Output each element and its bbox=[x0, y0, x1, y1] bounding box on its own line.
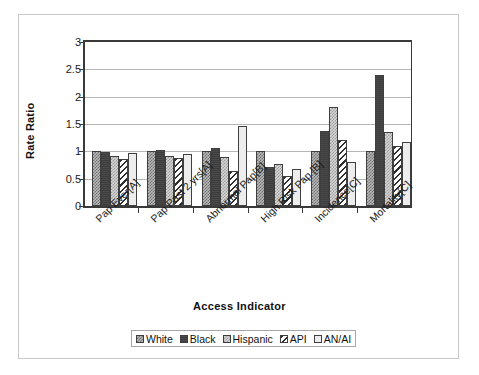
bar bbox=[156, 150, 165, 206]
legend-label: Black bbox=[190, 334, 216, 344]
y-axis-title: Rate Ratio bbox=[22, 96, 38, 166]
bar bbox=[147, 151, 156, 206]
y-axis-tick-labels: 00.511.522.53 bbox=[55, 32, 81, 216]
bar bbox=[375, 75, 384, 206]
y-tick-mark bbox=[79, 42, 83, 43]
legend-label: White bbox=[146, 334, 173, 344]
bar bbox=[211, 148, 220, 206]
y-tick-mark bbox=[79, 69, 83, 70]
legend-swatch-icon bbox=[314, 335, 322, 343]
chart-legend: WhiteBlackHispanicAPIAN/AI bbox=[131, 330, 356, 347]
legend-item: White bbox=[136, 334, 173, 344]
legend-swatch-icon bbox=[180, 335, 188, 343]
gridline bbox=[85, 124, 411, 125]
legend-label: Hispanic bbox=[233, 334, 273, 344]
y-tick-mark bbox=[79, 151, 83, 152]
y-tick-mark bbox=[79, 97, 83, 98]
gridline bbox=[85, 97, 411, 98]
x-axis-title: Access Indicator bbox=[0, 300, 479, 312]
bar bbox=[101, 152, 110, 206]
x-tick-mark bbox=[248, 208, 249, 213]
bar bbox=[92, 151, 101, 206]
chart-figure: Rate Ratio 00.511.522.53 Access Indicato… bbox=[0, 0, 479, 375]
legend-label: API bbox=[290, 334, 307, 344]
x-tick-mark bbox=[302, 208, 303, 213]
bar bbox=[366, 151, 375, 206]
legend-item: AN/AI bbox=[314, 334, 351, 344]
legend-item: Hispanic bbox=[223, 334, 273, 344]
legend-swatch-icon bbox=[223, 335, 231, 343]
y-tick-mark bbox=[79, 206, 83, 207]
legend-item: Black bbox=[180, 334, 216, 344]
legend-swatch-icon bbox=[136, 335, 144, 343]
y-tick-mark bbox=[79, 124, 83, 125]
x-tick-mark bbox=[138, 208, 139, 213]
x-tick-mark bbox=[193, 208, 194, 213]
gridline bbox=[85, 69, 411, 70]
legend-label: AN/AI bbox=[324, 334, 351, 344]
x-tick-mark bbox=[357, 208, 358, 213]
y-tick-mark bbox=[79, 179, 83, 180]
legend-item: API bbox=[280, 334, 307, 344]
legend-swatch-icon bbox=[280, 335, 288, 343]
